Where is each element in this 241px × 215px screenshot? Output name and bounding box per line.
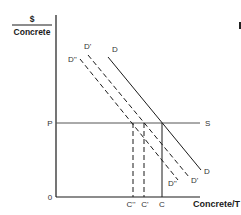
x-axis-label: Concrete/T <box>193 199 241 209</box>
y-axis-label-numerator: $ <box>30 14 35 24</box>
quantity-label-c: C <box>159 200 165 209</box>
demand-d-double-prime-top-label: D'' <box>68 55 77 64</box>
demand-curve-d <box>108 57 201 170</box>
origin-label: 0 <box>48 193 53 202</box>
demand-d-bottom-label: D <box>204 167 210 176</box>
demand-d-double-prime-bottom-label: D'' <box>168 179 177 188</box>
quantity-label-c-double-prime: C'' <box>127 200 136 209</box>
supply-label: S <box>205 119 210 128</box>
demand-curve-d-prime <box>88 55 189 177</box>
demand-d-top-label: D <box>112 45 118 54</box>
price-label: P <box>47 119 52 128</box>
y-axis-label-denominator: Concrete <box>14 27 51 37</box>
demand-d-prime-top-label: D' <box>84 42 92 51</box>
edge-mark <box>239 22 241 29</box>
demand-d-prime-bottom-label: D' <box>191 176 199 185</box>
demand-supply-diagram: $ Concrete 0 P S D D D' D' D'' D'' C'' C… <box>0 0 241 215</box>
quantity-label-c-prime: C' <box>141 200 149 209</box>
demand-curve-d-double-prime <box>80 59 178 180</box>
